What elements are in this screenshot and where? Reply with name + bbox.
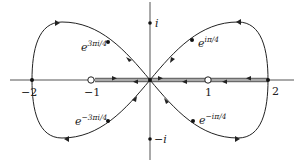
arrow-icon bbox=[64, 136, 69, 142]
point-i bbox=[148, 21, 152, 25]
open-point-1 bbox=[205, 77, 211, 83]
label-e-minus-i-pi-4: e−iπ/4 bbox=[199, 112, 227, 127]
label-e-i-pi-4: eiπ/4 bbox=[198, 35, 219, 50]
point-minus-i bbox=[148, 137, 152, 141]
tick-label-minus-i: −i bbox=[154, 133, 167, 146]
open-point-minus-1 bbox=[88, 77, 94, 83]
tick-label-2: 2 bbox=[272, 85, 279, 98]
point-minus-2 bbox=[30, 78, 34, 82]
point-origin bbox=[148, 78, 152, 82]
tick-label-minus-2: −2 bbox=[21, 86, 37, 99]
point-e-i-pi-4 bbox=[190, 38, 194, 42]
tick-label-minus-1: −1 bbox=[84, 86, 100, 99]
contour-diagram: −2 −1 1 2 i −i e3πi/4 eiπ/4 e−3πi/4 e−iπ… bbox=[0, 0, 298, 162]
arrow-icon bbox=[170, 57, 175, 63]
arrow-icon bbox=[236, 19, 241, 25]
arrow-icon bbox=[235, 136, 240, 142]
label-e-3pi-i-4: e3πi/4 bbox=[81, 39, 107, 54]
point-e-minus-i-pi-4 bbox=[191, 119, 195, 123]
arrow-icon bbox=[126, 57, 132, 62]
point-2 bbox=[266, 78, 270, 82]
tick-label-1: 1 bbox=[205, 86, 212, 99]
arrow-icon bbox=[55, 20, 60, 26]
tick-label-i: i bbox=[155, 17, 159, 30]
